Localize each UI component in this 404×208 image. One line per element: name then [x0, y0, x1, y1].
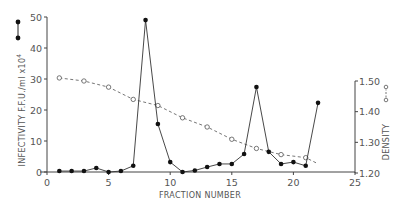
y2-tick-label: 1.20	[359, 168, 380, 179]
infectivity-point	[131, 164, 136, 169]
density-point	[106, 85, 110, 89]
infectivity-point	[254, 85, 259, 90]
infectivity-point	[242, 152, 247, 157]
infectivity-point	[119, 169, 124, 174]
y2-axis-title: DENSITY	[382, 124, 391, 161]
y-tick-label: 0	[36, 167, 42, 178]
infectivity-point	[266, 150, 271, 155]
density-point	[254, 146, 258, 150]
x-tick-label: 0	[44, 177, 50, 188]
x-tick-label: 25	[349, 177, 361, 188]
density-legend-icon	[384, 85, 388, 102]
infectivity-point	[230, 162, 235, 167]
x-tick-label: 10	[164, 177, 176, 188]
x-tick-label: 15	[226, 177, 238, 188]
infectivity-point	[291, 160, 296, 165]
infectivity-point	[156, 122, 161, 127]
x-tick-label: 20	[287, 177, 299, 188]
infectivity-point	[168, 160, 173, 165]
density-point	[57, 76, 61, 80]
y2-tick-label: 1.30	[359, 137, 380, 148]
right-y-ticks: 1.201.301.401.50	[355, 76, 380, 179]
infectivity-point	[57, 169, 62, 174]
infectivity-point	[316, 101, 321, 106]
infectivity-series	[57, 18, 320, 175]
density-point	[156, 103, 160, 107]
infectivity-point	[193, 168, 198, 173]
infectivity-point	[303, 164, 308, 169]
x-ticks: 0510152025	[44, 172, 361, 188]
y-tick-label: 10	[30, 136, 42, 147]
y-axis-title: INFECTIVITY F.F.U./ml x104	[15, 54, 27, 167]
y-tick-label: 50	[30, 12, 42, 23]
density-point	[180, 116, 184, 120]
infectivity-point	[180, 170, 185, 175]
infectivity-point	[205, 165, 210, 170]
density-point	[279, 152, 283, 156]
density-line	[59, 78, 318, 164]
y-tick-label: 40	[30, 43, 42, 54]
x-axis-title: FRACTION NUMBER	[159, 191, 241, 200]
infectivity-point	[82, 169, 87, 174]
infectivity-point	[143, 18, 148, 23]
density-point	[82, 79, 86, 83]
infectivity-point	[279, 162, 284, 167]
left-y-ticks: 01020304050	[30, 12, 47, 178]
density-point	[205, 125, 209, 129]
y2-tick-label: 1.50	[359, 76, 380, 87]
y2-tick-label: 1.40	[359, 106, 380, 117]
x-tick-label: 5	[106, 177, 112, 188]
infectivity-point	[69, 169, 74, 174]
density-point	[230, 137, 234, 141]
density-series	[57, 76, 318, 164]
density-point	[131, 97, 135, 101]
infectivity-point	[217, 162, 222, 167]
infectivity-point	[94, 166, 99, 171]
infectivity-line	[59, 20, 318, 172]
chart-canvas: 01020304050 0510152025 1.201.301.401.50 …	[0, 0, 404, 208]
axes	[40, 17, 355, 173]
infectivity-point	[106, 170, 111, 175]
y-tick-label: 30	[30, 74, 42, 85]
infectivity-legend-icon	[16, 20, 21, 41]
y-tick-label: 20	[30, 105, 42, 116]
